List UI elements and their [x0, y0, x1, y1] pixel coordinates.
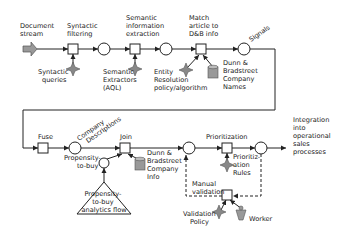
signals-label: Signals — [248, 23, 272, 43]
state-circle-icon[interactable] — [98, 43, 110, 55]
entity-resolution-label: Entity Resolution policy/algorithm — [154, 68, 207, 92]
syntactic-filtering-task-icon[interactable] — [68, 44, 78, 54]
workflow-diagram: Document stream Syntactic filtering Synt… — [0, 0, 344, 241]
signals-state-circle-icon[interactable] — [238, 43, 250, 55]
fuse-label: Fuse — [38, 133, 53, 141]
manual-validation-label: Manual validation — [192, 180, 224, 196]
semantic-extraction-label: Semantic information extraction — [126, 14, 166, 38]
state-circle-icon[interactable] — [183, 142, 195, 154]
join-label: Join — [119, 133, 132, 141]
prioritization-task-icon[interactable] — [222, 143, 232, 153]
integration-label: Integration into operational sales proce… — [293, 116, 333, 156]
fuse-task-icon[interactable] — [38, 143, 48, 153]
entity-resolution-policy-icon — [179, 63, 193, 77]
state-circle-icon[interactable] — [160, 43, 172, 55]
document-stream-label: Document stream — [20, 22, 56, 38]
company-descriptions-state-icon[interactable] — [69, 142, 81, 154]
company-descriptions-label: Company Descriptions — [76, 109, 124, 149]
prioritization-rules-label: Prioritiz- ation Rules — [233, 153, 262, 177]
dnb-names-database-icon — [208, 65, 218, 78]
syntactic-queries-label: Syntactic queries — [38, 68, 71, 84]
join-task-icon[interactable] — [120, 143, 130, 153]
dnb-company-info-label: Dunn & Bradstreet Company Info — [147, 149, 184, 181]
dnb-info-database-icon — [135, 157, 145, 170]
match-article-label: Match article to D&B info — [189, 14, 221, 38]
thick-arrow-icon — [23, 42, 37, 56]
prioritization-label: Prioritization — [206, 133, 248, 141]
semantic-extraction-task-icon[interactable] — [130, 44, 140, 54]
semantic-extractors-label: Semantic Extractors (AQL) — [103, 68, 139, 92]
match-article-task-icon[interactable] — [196, 44, 206, 54]
dnb-company-names-label: Dunn & Bradstreet Company Names — [223, 59, 260, 91]
propensity-to-buy-label: Propensity- to-buy — [64, 154, 103, 170]
worker-label: Worker — [249, 215, 273, 223]
validation-policy-label: Validation Policy — [183, 210, 218, 226]
worker-person-icon — [236, 206, 246, 220]
prioritization-rules-policy-icon — [220, 158, 234, 172]
syntactic-filtering-label: Syntactic filtering — [67, 22, 100, 38]
